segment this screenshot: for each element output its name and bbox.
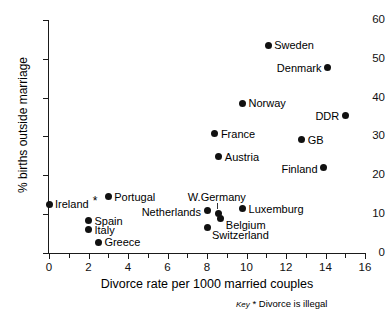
- x-tick-label: 2: [74, 262, 104, 274]
- data-point-label: Sweden: [274, 40, 314, 51]
- y-axis-title: % births outside marriage: [16, 25, 30, 225]
- x-tick-mark-minor: [266, 254, 267, 258]
- y-tick-mark: [43, 136, 48, 137]
- data-point-label: W.Germany: [188, 192, 246, 203]
- data-point: [324, 64, 331, 71]
- data-point: [239, 205, 246, 212]
- x-tick-mark: [168, 254, 169, 259]
- data-point: [85, 226, 92, 233]
- data-point: [320, 164, 327, 171]
- label-leader-line: [217, 203, 218, 209]
- x-tick-mark-minor: [187, 254, 188, 258]
- x-tick-label: 4: [113, 262, 143, 274]
- key-symbol: *: [252, 298, 256, 309]
- x-tick-mark: [286, 254, 287, 259]
- y-tick-label: 10: [347, 208, 385, 220]
- data-point-label: DDR: [315, 111, 339, 122]
- data-point: [342, 112, 349, 119]
- data-point: [211, 130, 218, 137]
- y-tick-label: 0: [347, 247, 385, 259]
- data-point-label: GB: [308, 135, 324, 146]
- key-note: Key * Divorce is illegal: [236, 299, 327, 310]
- y-tick-label: 60: [347, 14, 385, 26]
- x-tick-mark: [365, 254, 366, 259]
- data-point: [217, 215, 224, 222]
- data-point: [215, 153, 222, 160]
- x-tick-mark: [128, 254, 129, 259]
- data-point-label: Netherlands: [142, 207, 201, 218]
- x-tick-mark-minor: [227, 254, 228, 258]
- y-tick-mark: [43, 20, 48, 21]
- data-point: [204, 224, 211, 231]
- x-tick-mark: [207, 254, 208, 259]
- data-point: [298, 136, 305, 143]
- data-point-label: Portugal: [114, 192, 155, 203]
- y-tick-mark: [43, 98, 48, 99]
- data-point: [204, 207, 211, 214]
- x-tick-mark: [49, 254, 50, 259]
- x-tick-label: 8: [192, 262, 222, 274]
- data-point-label: Denmark: [277, 63, 322, 74]
- data-point: [239, 100, 246, 107]
- data-point: [85, 217, 92, 224]
- y-tick-mark: [43, 214, 48, 215]
- y-tick-mark: [43, 253, 48, 254]
- key-text: Divorce is illegal: [259, 298, 328, 309]
- x-tick-mark-minor: [69, 254, 70, 258]
- data-point-label: Luxemburg: [249, 204, 304, 215]
- x-tick-label: 12: [271, 262, 301, 274]
- data-point: [46, 201, 53, 208]
- y-tick-mark: [43, 175, 48, 176]
- x-tick-mark: [89, 254, 90, 259]
- x-tick-mark: [326, 254, 327, 259]
- data-point: [105, 193, 112, 200]
- y-tick-label: 20: [347, 169, 385, 181]
- x-tick-mark: [247, 254, 248, 259]
- y-tick-mark: [43, 59, 48, 60]
- x-tick-mark-minor: [148, 254, 149, 258]
- x-tick-mark-minor: [345, 254, 346, 258]
- data-point-label: Italy: [95, 225, 115, 236]
- data-point-label: Norway: [249, 98, 286, 109]
- y-tick-label: 50: [347, 53, 385, 65]
- data-point-label: Switzerland: [212, 230, 269, 241]
- data-point-label: Greece: [104, 237, 140, 248]
- x-tick-mark-minor: [108, 254, 109, 258]
- data-point-label: France: [221, 129, 255, 140]
- footnote-asterisk: *: [93, 195, 98, 207]
- data-point-label: Finland: [281, 164, 317, 175]
- data-point-label: Ireland: [55, 199, 89, 210]
- data-point-label: Austria: [225, 152, 259, 163]
- x-tick-label: 14: [311, 262, 341, 274]
- scatter-chart: 0102030405060 0246810121416 Ireland*Port…: [0, 0, 385, 321]
- y-tick-label: 30: [347, 130, 385, 142]
- x-tick-label: 0: [34, 262, 64, 274]
- x-tick-label: 10: [232, 262, 262, 274]
- key-word-label: Key: [236, 300, 250, 309]
- x-tick-label: 6: [153, 262, 183, 274]
- x-tick-label: 16: [350, 262, 380, 274]
- x-axis-title: Divorce rate per 1000 married couples: [48, 277, 366, 291]
- y-tick-label: 40: [347, 92, 385, 104]
- data-point: [95, 239, 102, 246]
- x-tick-mark-minor: [306, 254, 307, 258]
- data-point: [265, 42, 272, 49]
- y-axis-line: [48, 20, 49, 254]
